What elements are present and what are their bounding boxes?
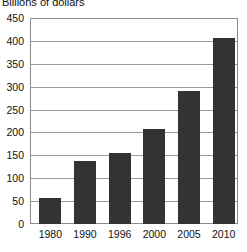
gridline bbox=[31, 110, 237, 111]
y-tick-label: 100 bbox=[6, 173, 24, 184]
y-tick-label: 300 bbox=[6, 81, 24, 92]
x-tick-label: 2010 bbox=[212, 228, 235, 240]
gridline bbox=[31, 87, 237, 88]
y-tick-label: 350 bbox=[6, 59, 24, 70]
y-axis: 050100150200250300350400450 bbox=[0, 18, 28, 224]
y-tick-label: 50 bbox=[12, 196, 24, 207]
gridline bbox=[31, 132, 237, 133]
y-tick-label: 0 bbox=[18, 219, 24, 230]
gridline bbox=[31, 155, 237, 156]
gridline bbox=[31, 178, 237, 179]
bar-chart: Billions of dollars 05010015020025030035… bbox=[0, 0, 247, 252]
x-tick-label: 1980 bbox=[39, 228, 62, 240]
gridline bbox=[31, 201, 237, 202]
y-tick-label: 400 bbox=[6, 36, 24, 47]
x-tick-label: 2005 bbox=[177, 228, 200, 240]
x-axis: 198019901996200020052010 bbox=[30, 228, 238, 244]
plot-area bbox=[30, 18, 238, 224]
chart-title: Billions of dollars bbox=[2, 0, 85, 8]
gridline bbox=[31, 41, 237, 42]
y-tick-label: 200 bbox=[6, 127, 24, 138]
x-tick-label: 2000 bbox=[143, 228, 166, 240]
y-tick-label: 250 bbox=[6, 104, 24, 115]
gridline bbox=[31, 64, 237, 65]
y-tick-label: 450 bbox=[6, 13, 24, 24]
x-tick-label: 1996 bbox=[108, 228, 131, 240]
x-tick-label: 1990 bbox=[73, 228, 96, 240]
y-tick-label: 150 bbox=[6, 150, 24, 161]
